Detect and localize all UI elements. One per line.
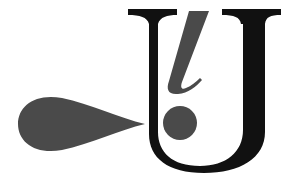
teardrop-pointer-icon xyxy=(18,97,145,151)
italic-l-icon xyxy=(168,11,209,94)
u-letter-icon xyxy=(128,9,281,173)
logo-graphic xyxy=(0,0,296,177)
dot-icon xyxy=(163,106,197,140)
